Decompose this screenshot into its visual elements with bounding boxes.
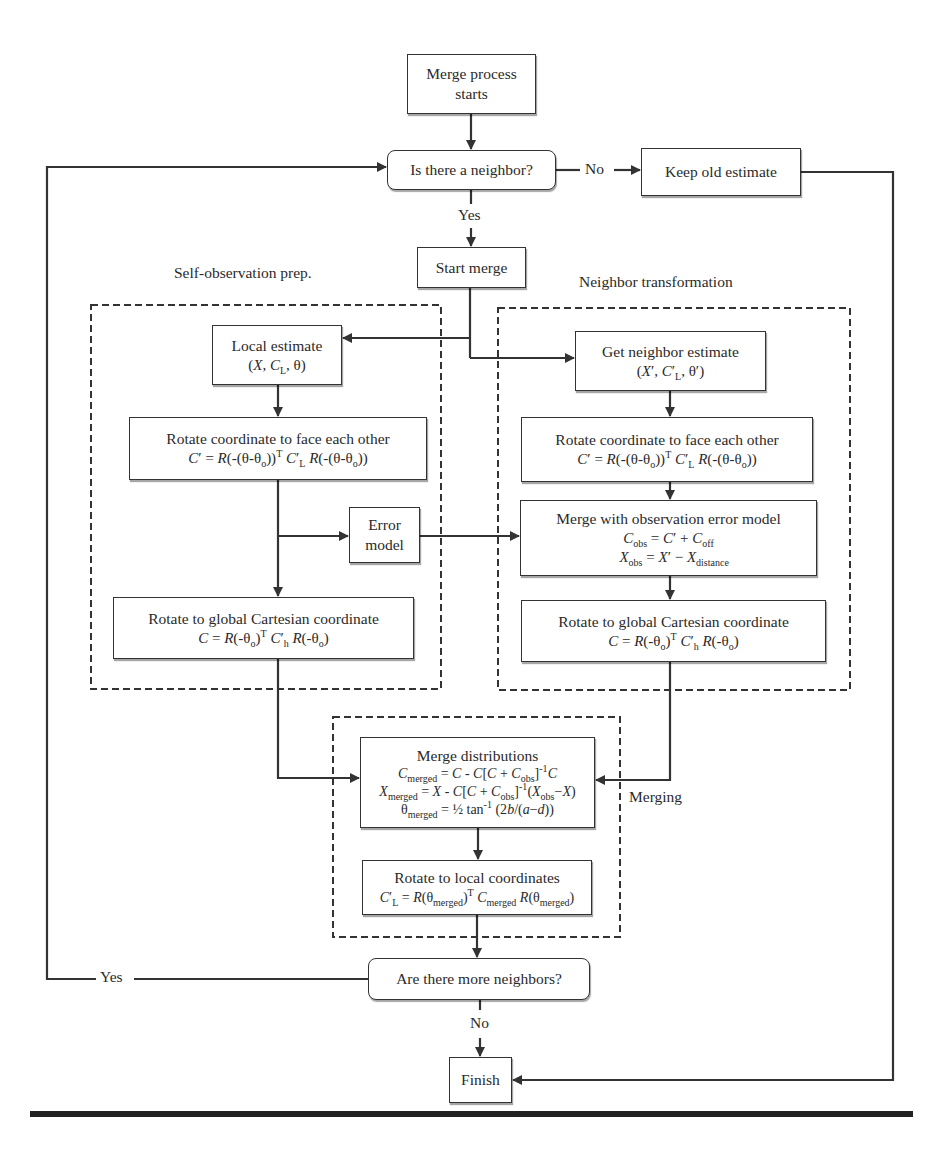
node-text: Start merge bbox=[436, 258, 508, 278]
decision-is-there-a-neighbor: Is there a neighbor? bbox=[387, 150, 556, 190]
node-formula: Xmerged = X - C[C + Cobs]-1(Xobs−X) bbox=[379, 783, 575, 801]
node-title: Local estimate bbox=[232, 336, 323, 356]
decision-are-there-more-neighbors: Are there more neighbors? bbox=[368, 958, 590, 1000]
node-merge-distributions: Merge distributions Cmerged = C - C[C + … bbox=[360, 737, 595, 828]
node-text: Merge process bbox=[426, 64, 517, 84]
node-title: Get neighbor estimate bbox=[602, 342, 739, 362]
node-text: Are there more neighbors? bbox=[396, 969, 562, 989]
node-text: Finish bbox=[461, 1070, 500, 1090]
node-title: Merge with observation error model bbox=[556, 509, 780, 529]
node-text: Keep old estimate bbox=[665, 162, 777, 182]
edge-label-yes: Yes bbox=[456, 206, 483, 224]
node-formula: Cmerged = C - C[C + Cobs]-1C bbox=[398, 765, 557, 783]
node-error-model: Error model bbox=[349, 507, 420, 563]
node-get-neighbor-estimate: Get neighbor estimate (X′, C′L, θ′) bbox=[575, 331, 766, 391]
node-text: Is there a neighbor? bbox=[410, 160, 533, 180]
node-formula: (X′, C′L, θ′) bbox=[637, 362, 704, 381]
node-rotate-to-local-coordinates: Rotate to local coordinates C′L = R(θmer… bbox=[362, 860, 592, 915]
node-text: starts bbox=[455, 84, 488, 104]
node-title: Rotate to local coordinates bbox=[394, 868, 560, 888]
node-formula: Cobs = C′ + Coff bbox=[623, 529, 714, 548]
node-self-rotate-global: Rotate to global Cartesian coordinate C … bbox=[113, 597, 414, 659]
node-title: Merge distributions bbox=[417, 747, 539, 765]
node-neighbor-rotate-global: Rotate to global Cartesian coordinate C … bbox=[521, 600, 826, 662]
node-neighbor-rotate-face-each-other: Rotate coordinate to face each other C′ … bbox=[521, 417, 813, 482]
group-label-self-observation: Self-observation prep. bbox=[172, 264, 314, 282]
node-title: Rotate coordinate to face each other bbox=[555, 430, 778, 450]
node-merge-with-observation-error-model: Merge with observation error model Cobs … bbox=[520, 500, 817, 576]
group-label-neighbor-transformation: Neighbor transformation bbox=[577, 273, 735, 291]
node-start-merge: Start merge bbox=[417, 247, 526, 288]
node-formula: C = R(-θo)T C′h R(-θo) bbox=[198, 629, 329, 648]
node-merge-process-starts: Merge process starts bbox=[407, 54, 536, 114]
node-text: Error bbox=[368, 515, 401, 535]
node-text: model bbox=[365, 535, 404, 555]
node-formula: C′ = R(-(θ-θo))T C′L R(-(θ-θo)) bbox=[577, 450, 756, 469]
node-title: Rotate coordinate to face each other bbox=[166, 429, 389, 449]
node-self-rotate-face-each-other: Rotate coordinate to face each other C′ … bbox=[129, 417, 427, 480]
node-formula: Xobs = X′ − Xdistance bbox=[608, 548, 729, 567]
edge-label-no: No bbox=[583, 160, 606, 178]
node-formula: (X, CL, θ) bbox=[248, 356, 305, 375]
node-keep-old-estimate: Keep old estimate bbox=[641, 148, 801, 196]
node-formula: θmerged = ½ tan-1 (2b/(a−d)) bbox=[401, 801, 554, 819]
node-formula: C′ = R(-(θ-θo))T C′L R(-(θ-θo)) bbox=[188, 449, 367, 468]
edge-label-no-finish: No bbox=[468, 1014, 491, 1032]
node-formula: C′L = R(θmerged)T Cmerged R(θmerged) bbox=[380, 888, 575, 907]
edge-label-yes-loop: Yes bbox=[98, 968, 125, 986]
node-finish: Finish bbox=[449, 1057, 512, 1103]
bottom-rule-divider bbox=[30, 1111, 913, 1117]
node-formula: C = R(-θo)T C′h R(-θo) bbox=[608, 632, 739, 651]
node-title: Rotate to global Cartesian coordinate bbox=[558, 612, 789, 632]
group-label-merging: Merging bbox=[627, 788, 684, 806]
node-local-estimate: Local estimate (X, CL, θ) bbox=[212, 325, 342, 385]
node-title: Rotate to global Cartesian coordinate bbox=[148, 609, 379, 629]
